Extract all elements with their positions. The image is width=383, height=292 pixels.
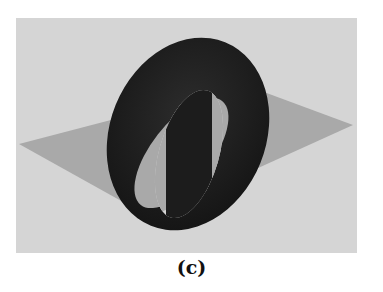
figure-panel [16,18,357,253]
torus-plane-render [16,18,357,253]
figure-caption: (c) [0,256,383,278]
